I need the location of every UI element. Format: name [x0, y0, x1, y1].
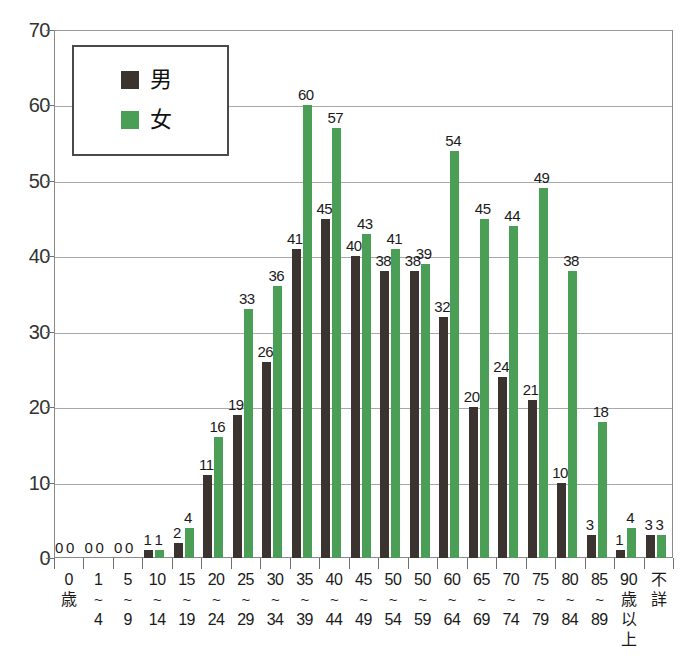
- bar-male: [469, 407, 478, 558]
- x-tick-mark: [496, 558, 497, 569]
- x-tick-mark: [349, 558, 350, 569]
- y-tick-mark: [46, 558, 54, 559]
- x-axis-category-label: 70~74: [496, 570, 525, 630]
- bar-group: 2045: [467, 30, 496, 558]
- bar-female: [539, 188, 548, 558]
- x-tick-mark: [555, 558, 556, 569]
- bar-female: [244, 309, 253, 558]
- x-tick-mark: [673, 558, 674, 569]
- bar-male: [351, 256, 360, 558]
- bar-male: [528, 400, 537, 558]
- y-tick-label: 10: [6, 471, 50, 494]
- legend-item-male: 男: [121, 69, 172, 91]
- age-sex-distribution-bar-chart: 010203040506070 000000112411161933263641…: [0, 0, 693, 661]
- bar-male: [321, 219, 330, 558]
- y-tick-label: 40: [6, 245, 50, 268]
- y-tick-mark: [46, 332, 54, 333]
- y-tick-mark: [46, 181, 54, 182]
- bar-female: [391, 249, 400, 558]
- x-axis-category-label: 45~49: [349, 570, 378, 630]
- bar-female: [450, 151, 459, 558]
- x-axis-labels: 0歳1~45~910~1415~1920~2425~2930~3435~3940…: [54, 570, 673, 660]
- bar-group: 1038: [555, 30, 584, 558]
- bar-male: [144, 550, 153, 558]
- x-axis-category-label: 90歳以上: [614, 570, 643, 650]
- bar-group: 318: [585, 30, 614, 558]
- bar-group: 33: [644, 30, 673, 558]
- bar-female: [303, 105, 312, 558]
- bar-male: [410, 271, 419, 558]
- x-tick-mark: [54, 558, 55, 569]
- bar-group: 2636: [260, 30, 289, 558]
- bar-group: 2444: [496, 30, 525, 558]
- x-tick-mark: [319, 558, 320, 569]
- bar-value-label: 60: [295, 86, 317, 103]
- bar-value-label: 41: [383, 230, 405, 247]
- x-tick-mark: [113, 558, 114, 569]
- bar-female: [362, 234, 371, 558]
- bar-group: 3254: [437, 30, 466, 558]
- y-tick-mark: [46, 483, 54, 484]
- bar-male: [203, 475, 212, 558]
- x-axis-category-label: 不詳: [644, 570, 673, 610]
- x-axis-category-label: 80~84: [555, 570, 584, 630]
- x-axis-category-label: 85~89: [585, 570, 614, 630]
- x-axis-category-label: 15~19: [172, 570, 201, 630]
- x-tick-mark: [231, 558, 232, 569]
- bar-group: 4043: [349, 30, 378, 558]
- x-axis-category-label: 60~64: [437, 570, 466, 630]
- bar-female: [421, 264, 430, 558]
- x-axis-category-label: 0歳: [54, 570, 83, 610]
- x-tick-mark: [614, 558, 615, 569]
- x-tick-mark: [644, 558, 645, 569]
- bar-female: [509, 226, 518, 558]
- x-axis-category-label: 10~14: [142, 570, 171, 630]
- y-tick-mark: [46, 30, 54, 31]
- x-tick-mark: [467, 558, 468, 569]
- y-axis: 010203040506070: [0, 30, 50, 558]
- legend-swatch-male-icon: [121, 71, 139, 89]
- bar-value-label: 33: [236, 290, 258, 307]
- bar-male: [292, 249, 301, 558]
- bar-value-label: 49: [531, 169, 553, 186]
- bar-male: [439, 317, 448, 558]
- y-tick-label: 60: [6, 94, 50, 117]
- bar-value-label: 38: [560, 252, 582, 269]
- bar-female: [627, 528, 636, 558]
- bar-male: [498, 377, 507, 558]
- x-tick-mark: [260, 558, 261, 569]
- bar-value-label: 44: [501, 207, 523, 224]
- x-axis-category-label: 30~34: [260, 570, 289, 630]
- x-axis-category-label: 50~54: [378, 570, 407, 630]
- bar-male: [174, 543, 183, 558]
- y-tick-label: 30: [6, 320, 50, 343]
- bar-value-label: 3: [649, 516, 671, 533]
- legend-label-female: 女: [150, 109, 172, 131]
- bar-female: [273, 286, 282, 558]
- bar-female: [598, 422, 607, 558]
- bar-value-label: 4: [177, 509, 199, 526]
- y-tick-mark: [46, 105, 54, 106]
- x-tick-mark: [142, 558, 143, 569]
- bar-group: 3841: [378, 30, 407, 558]
- bar-value-label: 43: [354, 215, 376, 232]
- x-axis-ticks: [54, 558, 673, 569]
- x-axis-category-label: 50~59: [408, 570, 437, 630]
- bar-male: [380, 271, 389, 558]
- legend-swatch-female-icon: [121, 111, 139, 129]
- x-tick-mark: [83, 558, 84, 569]
- x-axis-category-label: 65~69: [467, 570, 496, 630]
- x-axis-category-label: 20~24: [201, 570, 230, 630]
- x-axis-category-label: 5~9: [113, 570, 142, 630]
- y-tick-label: 70: [6, 19, 50, 42]
- y-tick-label: 50: [6, 169, 50, 192]
- legend-label-male: 男: [150, 69, 172, 91]
- y-tick-label: 0: [6, 547, 50, 570]
- bar-female: [480, 219, 489, 558]
- bar-value-label: 57: [324, 109, 346, 126]
- bar-male: [233, 415, 242, 558]
- bar-female: [568, 271, 577, 558]
- bar-value-label: 45: [472, 200, 494, 217]
- x-tick-mark: [526, 558, 527, 569]
- bar-value-label: 16: [206, 418, 228, 435]
